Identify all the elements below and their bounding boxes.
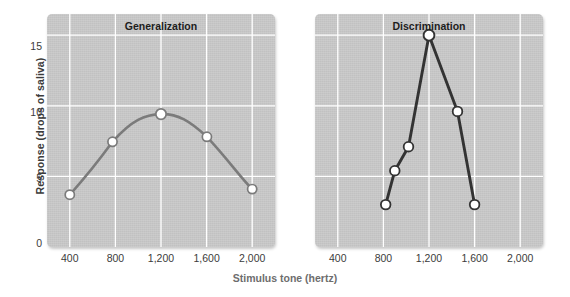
data-markers-generalization bbox=[65, 109, 257, 199]
x-tick-gen-2000: 2,000 bbox=[229, 252, 275, 264]
x-tick-gen-1600: 1,600 bbox=[184, 252, 230, 264]
y-tick-10: 10 bbox=[20, 106, 42, 118]
figure-container: Response (drops of saliva) 0 5 10 15 Gen… bbox=[0, 0, 570, 297]
x-tick-dis-800: 800 bbox=[360, 252, 406, 264]
panel-discrimination: Discrimination bbox=[315, 14, 543, 247]
x-tick-dis-2000: 2,000 bbox=[497, 252, 543, 264]
x-tick-gen-400: 400 bbox=[47, 252, 93, 264]
y-tick-15: 15 bbox=[20, 40, 42, 52]
series-discrimination bbox=[315, 14, 543, 247]
x-axis-ticks-generalization: 400 800 1,200 1,600 2,000 bbox=[47, 252, 275, 268]
x-tick-gen-1200: 1,200 bbox=[138, 252, 184, 264]
y-axis-ticks: 0 5 10 15 bbox=[12, 0, 42, 297]
x-tick-dis-1600: 1,600 bbox=[452, 252, 498, 264]
x-tick-gen-800: 800 bbox=[92, 252, 138, 264]
series-generalization bbox=[47, 14, 275, 247]
x-axis-ticks-discrimination: 400 800 1,200 1,600 2,000 bbox=[315, 252, 543, 268]
x-tick-dis-400: 400 bbox=[315, 252, 361, 264]
x-axis-label: Stimulus tone (hertz) bbox=[0, 272, 570, 284]
panel-generalization: Generalization bbox=[47, 14, 275, 247]
panel-title-generalization: Generalization bbox=[47, 20, 275, 32]
x-tick-dis-1200: 1,200 bbox=[406, 252, 452, 264]
y-tick-5: 5 bbox=[20, 172, 42, 184]
panel-title-discrimination: Discrimination bbox=[315, 20, 543, 32]
y-tick-0: 0 bbox=[20, 237, 42, 249]
data-markers-discrimination bbox=[381, 30, 480, 210]
